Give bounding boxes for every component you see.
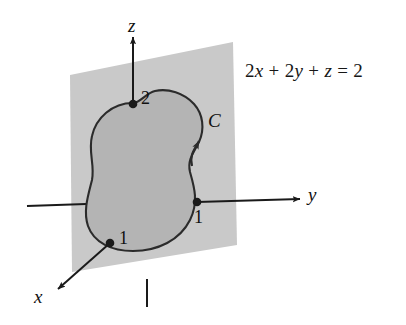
x-axis-label: x [34,286,42,308]
y-axis-label: y [308,184,316,206]
equation-term2-var: y [295,60,304,81]
x-intercept-label: 1 [119,228,128,249]
z-intercept-label: 2 [141,88,150,109]
plane-equation: 2x + 2y + z = 2 [245,60,363,82]
equation-term2-coeff: 2 [285,60,295,81]
y-intercept-dot [193,198,202,207]
equation-plus-1: + [269,60,280,81]
z-intercept-dot [129,100,138,109]
plane-curve-diagram [0,0,406,325]
equation-equals: = [337,60,348,81]
y-intercept-label: 1 [194,207,203,228]
equation-plus-2: + [308,60,319,81]
equation-term1-var: x [255,60,264,81]
equation-term3-var: z [324,60,332,81]
curve-c-label: C [208,110,221,132]
x-intercept-dot [106,239,115,248]
equation-rhs: 2 [353,60,363,81]
equation-term1-coeff: 2 [245,60,255,81]
z-axis-label: z [128,15,135,37]
